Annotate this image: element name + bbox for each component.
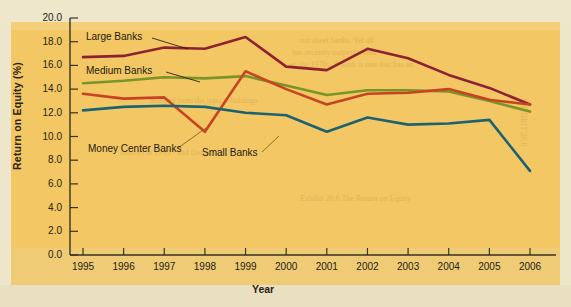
x-tick-label: 2005 bbox=[469, 261, 509, 272]
y-tick-label: 20.0 bbox=[28, 12, 62, 23]
series-annotation-money-center-banks: Money Center Banks bbox=[88, 143, 181, 154]
y-tick-label: 12.0 bbox=[28, 107, 62, 118]
x-tick-label: 2003 bbox=[388, 261, 428, 272]
chart-axes bbox=[70, 18, 556, 255]
x-tick-label: 1997 bbox=[144, 261, 184, 272]
x-tick-label: 2002 bbox=[347, 261, 387, 272]
series-line-small-banks bbox=[83, 106, 530, 171]
y-tick-label: 2.0 bbox=[28, 225, 62, 236]
x-tick-label: 1998 bbox=[185, 261, 225, 272]
x-tick-label: 2004 bbox=[429, 261, 469, 272]
x-tick-label: 2000 bbox=[266, 261, 306, 272]
y-tick-label: 0.0 bbox=[28, 249, 62, 260]
y-tick-label: 8.0 bbox=[28, 154, 62, 165]
y-tick-label: 18.0 bbox=[28, 36, 62, 47]
y-tick-label: 6.0 bbox=[28, 178, 62, 189]
y-axis-ticks bbox=[70, 18, 78, 255]
x-tick-label: 1995 bbox=[63, 261, 103, 272]
x-tick-label: 1999 bbox=[226, 261, 266, 272]
y-tick-label: 14.0 bbox=[28, 83, 62, 94]
y-tick-label: 16.0 bbox=[28, 59, 62, 70]
x-axis-ticks bbox=[83, 248, 530, 255]
x-tick-label: 1996 bbox=[104, 261, 144, 272]
chart-page: nut sheet banks. Yet all has recently ou… bbox=[0, 0, 571, 307]
y-tick-label: 4.0 bbox=[28, 202, 62, 213]
series-annotation-small-banks: Small Banks bbox=[202, 147, 258, 158]
annotation-leader-lines bbox=[152, 38, 279, 152]
series-annotation-medium-banks: Medium Banks bbox=[86, 65, 152, 76]
series-annotation-large-banks: Large Banks bbox=[86, 31, 142, 42]
y-tick-label: 10.0 bbox=[28, 131, 62, 142]
x-tick-label: 2001 bbox=[307, 261, 347, 272]
x-tick-label: 2006 bbox=[510, 261, 550, 272]
